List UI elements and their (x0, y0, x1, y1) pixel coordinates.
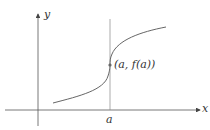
diagram-canvas: y x a (a, f(a)) (0, 0, 210, 130)
tick-label-a: a (106, 114, 113, 125)
point-marker (108, 63, 111, 66)
point-label: (a, f(a)) (114, 59, 155, 70)
y-axis-label: y (44, 9, 50, 20)
x-axis-label: x (202, 103, 208, 114)
graph-svg (0, 0, 210, 130)
